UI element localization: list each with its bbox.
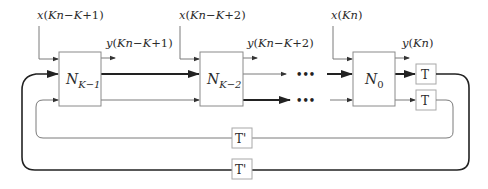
delay-tprime-outer: T' [232, 159, 252, 179]
node-nk2-main: N [206, 71, 220, 87]
output-label-y0: y(Kn) [401, 36, 434, 50]
systolic-block-diagram: x(Kn−K+1) x(Kn−K+2) x(Kn) y(Kn−K+1) y(Kn… [0, 0, 488, 189]
output-label-y2: y(Kn−K+2) [246, 36, 314, 50]
input-label-x0: x(Kn) [331, 8, 363, 22]
node-n0-sub: 0 [377, 79, 383, 90]
svg-text:T': T' [235, 163, 246, 177]
node-nk1-sub: K−1 [77, 79, 100, 90]
node-nk1: NK−1 [59, 52, 101, 106]
output-label-y1: y(Kn−K+1) [105, 36, 173, 50]
svg-text:T: T [421, 68, 429, 82]
node-nk2-sub: K−2 [218, 79, 241, 90]
node-nk1-main: N [65, 71, 79, 87]
svg-text:T': T' [235, 132, 246, 146]
node-n0-main: N [364, 71, 378, 87]
delay-tprime-inner: T' [232, 128, 252, 148]
ellipsis-top: ••• [296, 69, 315, 80]
ellipsis-bottom: ••• [296, 95, 315, 106]
node-nk2: NK−2 [200, 52, 243, 106]
delay-t-top: T [416, 64, 436, 84]
input-wire-x0 [333, 26, 352, 59]
delay-t-bottom: T [416, 90, 436, 110]
node-n0: N0 [353, 52, 395, 106]
input-wire-x2 [180, 26, 199, 59]
input-label-x1: x(Kn−K+1) [37, 8, 104, 22]
input-label-x2: x(Kn−K+2) [179, 8, 246, 22]
svg-text:T: T [421, 94, 429, 108]
input-wire-x1 [39, 26, 58, 59]
